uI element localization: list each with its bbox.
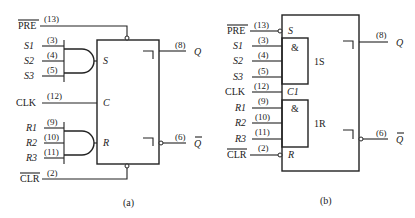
- q-label-b: Q: [396, 37, 404, 48]
- and-gate-s-a: [64, 49, 94, 73]
- and-gate-r-a: [64, 131, 94, 155]
- clr-label-a: CLR: [20, 173, 40, 184]
- r2-pin-a: (10): [44, 132, 59, 142]
- caption-b: (b): [320, 195, 332, 207]
- q-pin-b: (8): [376, 30, 387, 40]
- s3-pin-b: (5): [258, 66, 269, 76]
- s1-label-b: S1: [233, 40, 243, 51]
- clk-label-a: CLK: [16, 97, 37, 108]
- s1-pin-b: (3): [258, 35, 269, 45]
- qbar-label-a: Q: [194, 138, 202, 149]
- s2-pin-b: (4): [258, 50, 269, 60]
- qbar-inversion-bubble-a: [159, 141, 163, 145]
- diagram-a: PRE (13) S1 (3) S2 (4) S3 (5) S CLK (12)…: [16, 14, 202, 209]
- s3-pin-a: (5): [47, 65, 58, 75]
- reset-block-label-b: 1R: [314, 118, 326, 129]
- qbar-pin-b: (6): [376, 128, 387, 138]
- postponed-output-symbol-qbar-a: [143, 138, 153, 146]
- clr-label-b: CLR: [227, 149, 247, 160]
- clr-inversion-bubble-a: [125, 164, 129, 168]
- s2-pin-a: (4): [47, 50, 58, 60]
- s3-label-a: S3: [24, 70, 34, 81]
- qbar-label-b: Q: [396, 134, 404, 145]
- s2-label-a: S2: [24, 55, 34, 66]
- and-symbol-r-b: &: [291, 103, 299, 114]
- jk-flipflop-diagrams: PRE (13) S1 (3) S2 (4) S3 (5) S CLK (12)…: [0, 0, 415, 218]
- r3-label-b: R3: [234, 133, 246, 144]
- r-box-label-b: R: [287, 149, 294, 160]
- r2-label-b: R2: [234, 117, 246, 128]
- pre-label-b: PRE: [227, 25, 245, 36]
- r3-label-a: R3: [25, 152, 37, 163]
- r1-label-b: R1: [234, 102, 246, 113]
- r1-pin-a: (9): [47, 117, 58, 127]
- r1-label-a: R1: [25, 122, 37, 133]
- postponed-output-symbol-q-a: [143, 51, 153, 59]
- clr-pin-b: (2): [258, 143, 269, 153]
- r2-label-a: R2: [25, 137, 37, 148]
- pre-pin-a: (13): [44, 14, 59, 24]
- r3-pin-b: (11): [255, 127, 270, 137]
- r-box-label-a: R: [102, 137, 109, 148]
- c1-box-label-b: C1: [287, 86, 299, 97]
- clk-pin-b: (12): [254, 81, 269, 91]
- clr-inversion-bubble-b: [278, 153, 282, 157]
- clr-pin-a: (2): [47, 168, 58, 178]
- and-symbol-s-b: &: [291, 42, 299, 53]
- set-block-label-b: 1S: [314, 56, 325, 67]
- qbar-inversion-bubble-b: [359, 137, 363, 141]
- s3-label-b: S3: [233, 71, 243, 82]
- r1-pin-b: (9): [258, 96, 269, 106]
- postponed-output-symbol-qbar-b: [343, 130, 353, 139]
- caption-a: (a): [123, 197, 134, 209]
- s-box-label-a: S: [103, 55, 108, 66]
- s2-label-b: S2: [233, 55, 243, 66]
- r2-pin-b: (10): [255, 112, 270, 122]
- clk-pin-a: (12): [47, 91, 62, 101]
- pre-inversion-bubble-b: [278, 29, 282, 33]
- q-pin-a: (8): [175, 40, 186, 50]
- diagram-b: PRE (13) S S1 (3) S2 (4) S3 (5) & 1S CLK…: [225, 15, 404, 207]
- c-box-label-a: C: [103, 97, 110, 108]
- pre-label-a: PRE: [18, 20, 36, 31]
- postponed-output-symbol-q-b: [343, 41, 353, 49]
- r3-pin-a: (11): [44, 147, 59, 157]
- qbar-pin-a: (6): [175, 132, 186, 142]
- s1-label-a: S1: [24, 40, 34, 51]
- s-box-label-b: S: [288, 25, 293, 36]
- pre-inversion-bubble-a: [125, 36, 129, 40]
- s1-pin-a: (3): [47, 35, 58, 45]
- q-label-a: Q: [194, 46, 202, 57]
- pre-pin-b: (13): [254, 20, 269, 30]
- clk-label-b: CLK: [225, 86, 246, 97]
